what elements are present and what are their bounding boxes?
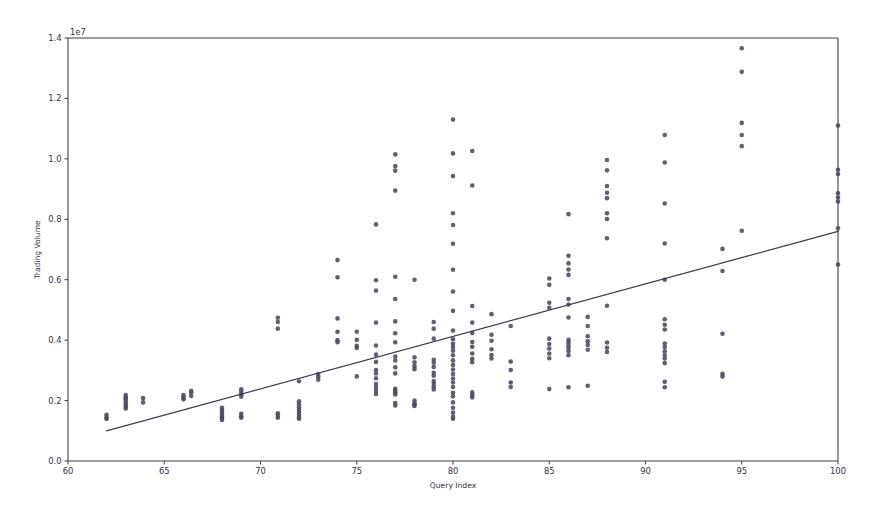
- scatter-point: [451, 416, 456, 421]
- scatter-point: [836, 226, 841, 231]
- scatter-point: [585, 315, 590, 320]
- scatter-point: [739, 70, 744, 75]
- y-tick-label: 0.2: [48, 396, 61, 406]
- scatter-point: [662, 361, 667, 366]
- scatter-point: [451, 151, 456, 156]
- scatter-point: [431, 336, 436, 341]
- scatter-point: [566, 212, 571, 217]
- x-tick-label: 85: [544, 466, 555, 476]
- scatter-point: [451, 385, 456, 390]
- scatter-point: [508, 359, 513, 364]
- scatter-point: [585, 324, 590, 329]
- scatter-point: [335, 329, 340, 334]
- trendline: [107, 231, 839, 430]
- scatter-point: [393, 340, 398, 345]
- scatter-point: [739, 228, 744, 233]
- scatter-point: [431, 320, 436, 325]
- scatter-point: [662, 356, 667, 361]
- scatter-point: [605, 211, 610, 216]
- scatter-point: [662, 160, 667, 165]
- scatter-point: [335, 258, 340, 263]
- scatter-point: [836, 199, 841, 204]
- scatter-point: [605, 184, 610, 189]
- scatter-point: [508, 380, 513, 385]
- scatter-point: [739, 121, 744, 126]
- scatter-point: [451, 380, 456, 385]
- scatter-point: [393, 403, 398, 408]
- x-axis-title: Query Index: [430, 481, 477, 490]
- scatter-point: [605, 236, 610, 241]
- scatter-point: [239, 415, 244, 420]
- x-tick-label: 90: [640, 466, 651, 476]
- scatter-point: [605, 340, 610, 345]
- scatter-point: [566, 254, 571, 259]
- x-tick-label: 75: [351, 466, 362, 476]
- scatter-point: [451, 289, 456, 294]
- scatter-point: [451, 353, 456, 358]
- y-tick-label: 1.4: [48, 33, 61, 43]
- scatter-point: [547, 300, 552, 305]
- scatter-point: [374, 392, 379, 397]
- scatter-point: [354, 346, 359, 351]
- scatter-point: [470, 395, 475, 400]
- scatter-point: [489, 356, 494, 361]
- scatter-point: [605, 217, 610, 222]
- scatter-point: [508, 385, 513, 390]
- scatter-point: [374, 288, 379, 293]
- scatter-point: [374, 360, 379, 365]
- x-axis-ticks: 6065707580859095100: [63, 461, 846, 476]
- scatter-point: [566, 315, 571, 320]
- scatter-point: [412, 367, 417, 372]
- scatter-point: [412, 277, 417, 282]
- scatter-point: [566, 267, 571, 272]
- scatter-point: [451, 372, 456, 377]
- scatter-point: [412, 355, 417, 360]
- scatter-point: [431, 361, 436, 366]
- scatter-point: [566, 297, 571, 302]
- scatter-point: [393, 354, 398, 359]
- scatter-point: [354, 329, 359, 334]
- scatter-point: [297, 416, 302, 421]
- scatter-point: [431, 373, 436, 378]
- scatter-point: [508, 368, 513, 373]
- scatter-point: [605, 303, 610, 308]
- y-tick-label: 0.0: [48, 456, 61, 466]
- scatter-point: [605, 345, 610, 350]
- scatter-point: [836, 191, 841, 196]
- scatter-point: [739, 46, 744, 51]
- scatter-point: [104, 412, 109, 417]
- scatter-point: [566, 349, 571, 354]
- scatter-point: [123, 406, 128, 411]
- scatter-point: [547, 356, 552, 361]
- scatter-point: [739, 133, 744, 138]
- scatter-points-layer: [104, 46, 840, 422]
- scatter-point: [393, 371, 398, 376]
- y-axis-title: Trading Volume: [33, 220, 42, 280]
- scatter-point: [489, 332, 494, 337]
- scatter-point: [547, 346, 552, 351]
- scatter-point: [297, 379, 302, 384]
- scatter-point: [451, 406, 456, 411]
- scatter-point: [547, 283, 552, 288]
- y-tick-label: 0.8: [48, 214, 61, 224]
- scatter-point: [489, 338, 494, 343]
- scatter-point: [393, 319, 398, 324]
- scatter-point: [662, 241, 667, 246]
- scatter-point: [470, 344, 475, 349]
- scatter-point: [393, 274, 398, 279]
- scatter-point: [123, 393, 128, 398]
- scatter-point: [585, 343, 590, 348]
- scatter-point: [354, 374, 359, 379]
- scatter-point: [470, 320, 475, 325]
- scatter-point: [451, 363, 456, 368]
- scatter-point: [451, 174, 456, 179]
- scatter-point: [393, 365, 398, 370]
- scatter-point: [335, 340, 340, 345]
- scatter-point: [181, 397, 186, 402]
- figure-canvas: 0.00.20.40.60.81.01.21.4 606570758085909…: [0, 0, 886, 519]
- scatter-point: [374, 343, 379, 348]
- scatter-point: [585, 334, 590, 339]
- scatter-point: [374, 320, 379, 325]
- x-tick-label: 60: [63, 466, 74, 476]
- scatter-point: [276, 326, 281, 331]
